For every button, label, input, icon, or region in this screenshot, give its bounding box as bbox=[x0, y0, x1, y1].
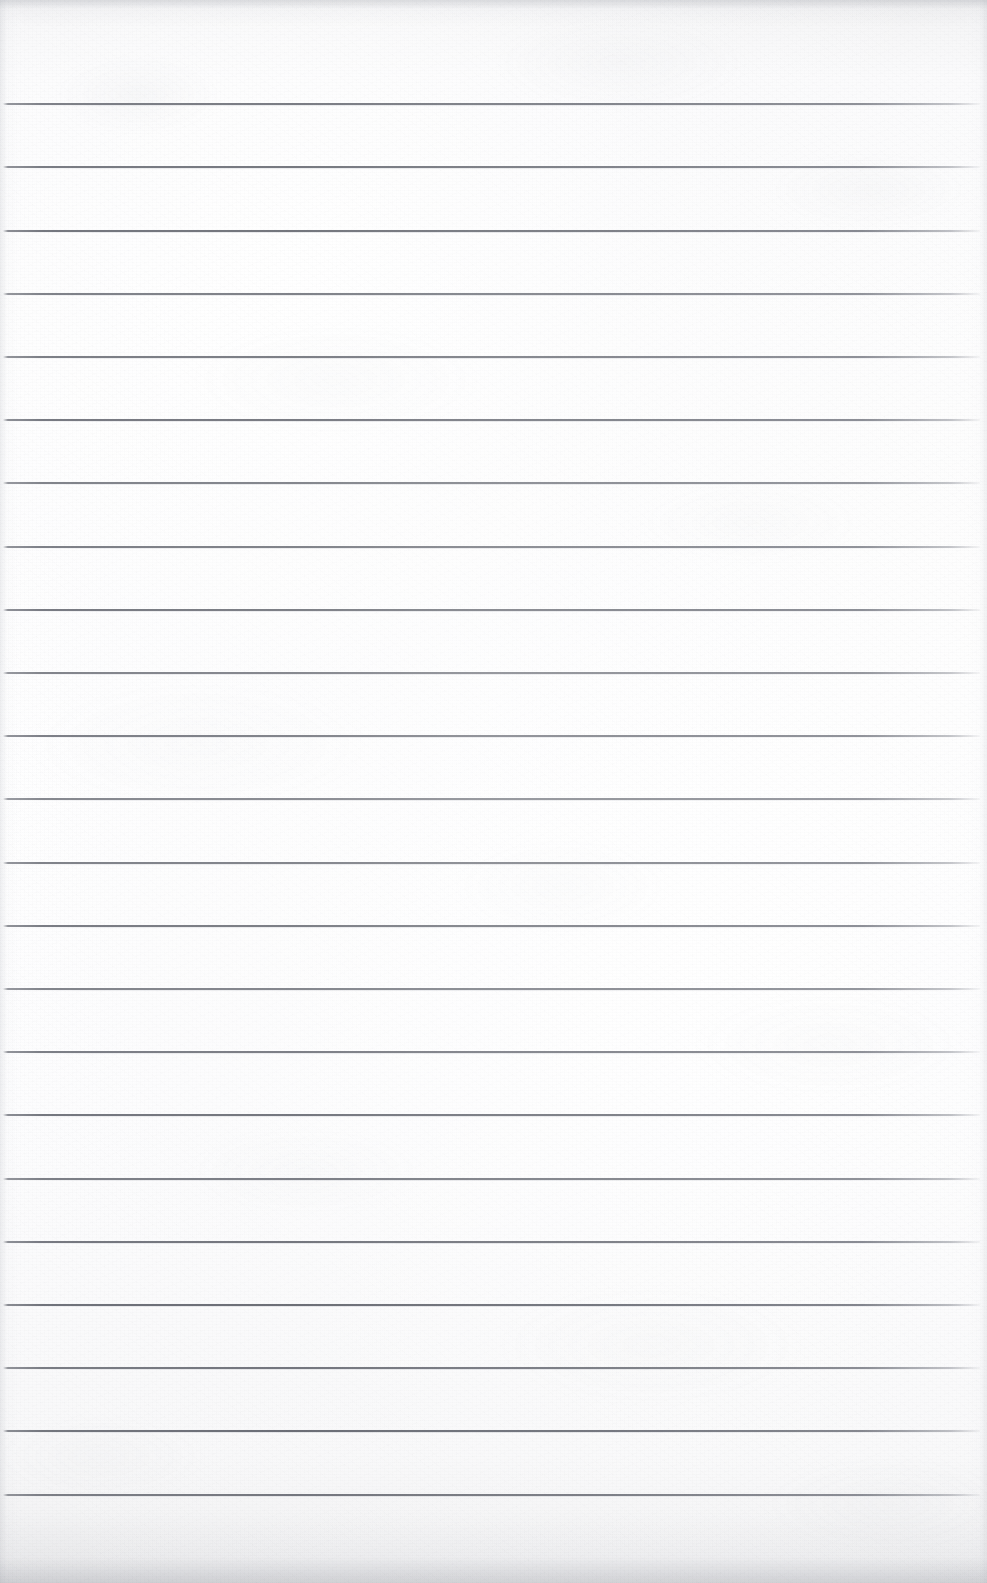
notepad-page bbox=[0, 0, 987, 1583]
paper-sheet bbox=[0, 0, 987, 1583]
